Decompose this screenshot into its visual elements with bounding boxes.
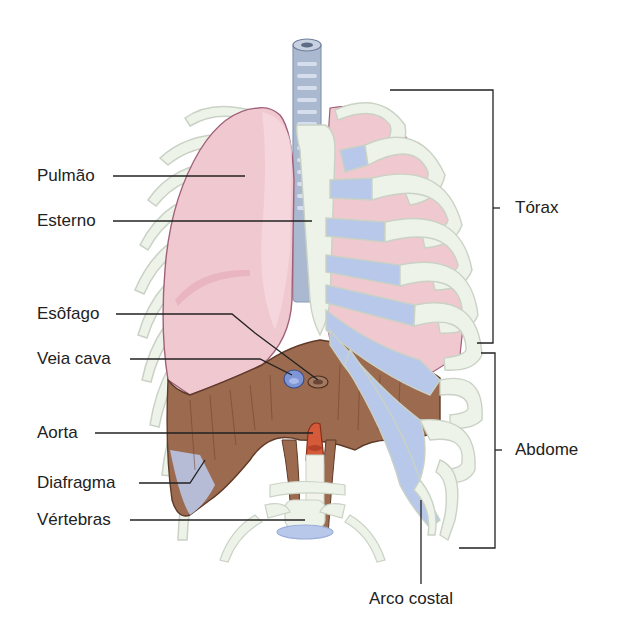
label-pulmao: Pulmão [37, 167, 95, 184]
label-torax: Tórax [515, 199, 558, 216]
label-abdome: Abdome [515, 441, 578, 458]
label-esofago: Esôfago [37, 305, 99, 322]
label-aorta: Aorta [37, 424, 78, 441]
vertebrae [265, 482, 345, 540]
label-vertebras: Vértebras [37, 511, 111, 528]
esophagus [308, 376, 328, 388]
label-veia-cava: Veia cava [37, 350, 111, 367]
label-arco-costal: Arco costal [369, 590, 453, 607]
label-diafragma: Diafragma [37, 474, 115, 491]
label-esterno: Esterno [37, 212, 96, 229]
